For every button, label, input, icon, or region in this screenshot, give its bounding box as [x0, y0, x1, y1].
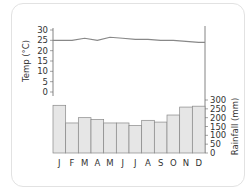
month-label: M — [81, 158, 88, 168]
month-label: J — [120, 158, 124, 168]
temp-axis-label: Temp (°C) — [21, 40, 31, 83]
temperature-line — [53, 37, 205, 42]
temp-tick-label: 25 — [37, 35, 48, 45]
rainfall-bar — [167, 115, 180, 153]
rain-tick-label: 150 — [210, 122, 226, 132]
month-label: J — [57, 158, 61, 168]
month-label: S — [158, 158, 163, 168]
rainfall-bar — [66, 123, 79, 153]
temp-tick-label: 30 — [37, 25, 48, 35]
rainfall-bar — [129, 126, 142, 153]
temp-tick-label: 20 — [37, 46, 48, 56]
rainfall-bar — [78, 118, 91, 153]
rain-tick-label: 250 — [210, 104, 226, 114]
rainfall-bar — [154, 122, 167, 153]
temp-tick-label: 10 — [37, 66, 48, 76]
month-label: M — [106, 158, 113, 168]
rainfall-bar — [116, 123, 129, 153]
rainfall-bar — [192, 106, 205, 153]
rain-tick-label: 50 — [210, 139, 221, 149]
month-label: A — [145, 158, 151, 168]
rainfall-bar — [91, 119, 104, 153]
month-label: F — [70, 158, 75, 168]
month-label: N — [183, 158, 189, 168]
rainfall-bar — [142, 120, 155, 153]
climate-chart: 051015202530Temp (°C)050100150200250300R… — [0, 0, 251, 192]
month-label: A — [94, 158, 100, 168]
rainfall-bar — [180, 107, 193, 153]
rainfall-bar — [53, 105, 66, 153]
month-label: O — [170, 158, 177, 168]
temp-tick-label: 5 — [43, 77, 48, 87]
month-label: J — [133, 158, 137, 168]
month-label: D — [195, 158, 202, 168]
rain-axis-label: Rainfall (mm) — [230, 98, 240, 156]
rain-tick-label: 300 — [210, 95, 226, 105]
rainfall-bar — [104, 123, 117, 153]
temp-tick-label: 15 — [37, 56, 48, 66]
rain-tick-label: 100 — [210, 130, 226, 140]
rain-tick-label: 200 — [210, 113, 226, 123]
rain-tick-label: 0 — [210, 148, 215, 158]
temp-tick-label: 0 — [43, 87, 48, 97]
